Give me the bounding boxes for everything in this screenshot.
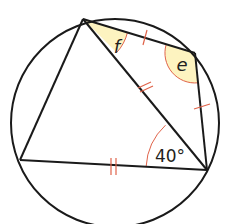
angle-e-label: e xyxy=(176,54,187,75)
diagonal-AC xyxy=(83,19,207,170)
side-AB xyxy=(83,19,195,53)
tick-AC-1 xyxy=(138,82,151,88)
tick-BC xyxy=(194,104,210,109)
geometry-diagram: f e 40° xyxy=(0,0,226,224)
angle-c-label: 40° xyxy=(155,146,185,166)
tick-AC-2 xyxy=(140,86,153,92)
